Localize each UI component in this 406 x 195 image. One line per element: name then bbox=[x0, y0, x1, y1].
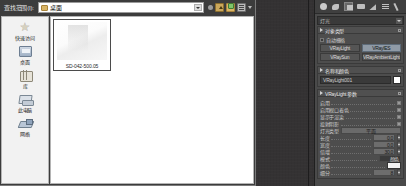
back-icon[interactable] bbox=[208, 5, 213, 10]
param-row-visible-in-render[interactable]: 显示于渲染 bbox=[320, 113, 401, 120]
up-folder-icon[interactable] bbox=[215, 3, 224, 12]
hierarchy-tab-icon[interactable] bbox=[344, 2, 353, 11]
param-row-enable[interactable]: 启用 bbox=[320, 99, 401, 106]
param-label: 灯光类型 bbox=[320, 127, 339, 134]
rollout-title: 名称和颜色 bbox=[325, 67, 349, 74]
param-checkbox[interactable] bbox=[397, 101, 401, 105]
rollout-header[interactable]: 对象类型 bbox=[317, 26, 404, 34]
lookin-label: 查找范围(I): bbox=[2, 3, 36, 12]
param-row-subdivs[interactable]: 细分 8 bbox=[320, 169, 401, 176]
sidebar-item-desktop[interactable]: 桌面 bbox=[2, 44, 48, 68]
param-checkbox[interactable] bbox=[397, 122, 401, 126]
param-row-mode[interactable]: 模式 颜色 bbox=[320, 155, 401, 162]
star-icon bbox=[19, 22, 32, 33]
vrayambientlight-button[interactable]: VRayAmbientLight bbox=[362, 53, 402, 61]
sidebar-item-label: 桌面 bbox=[20, 58, 30, 65]
sidebar-item-label: 快速访问 bbox=[15, 34, 34, 41]
app-root: 查找范围(I): 桌面 快速访问 bbox=[0, 0, 406, 195]
command-panel-tabs bbox=[315, 0, 406, 14]
rollout-header[interactable]: VRayLight 参数 bbox=[317, 89, 404, 97]
chevron-down-icon[interactable] bbox=[194, 4, 202, 11]
param-leader bbox=[331, 171, 371, 175]
sidebar-item-label: 网络 bbox=[20, 130, 30, 137]
object-category-dropdown[interactable]: 灯光 bbox=[317, 16, 404, 25]
chevron-right-icon bbox=[320, 91, 323, 95]
rollout-scroll-area[interactable]: 对象类型 自动栅格 VRayLight VRayIES VRaySun VRay… bbox=[315, 25, 406, 186]
utilities-tab-icon[interactable] bbox=[381, 2, 390, 11]
param-row-multiplier[interactable]: 倍增 30.0 bbox=[320, 148, 401, 155]
places-sidebar: 快速访问 桌面 库 此电脑 网络 bbox=[1, 16, 49, 184]
address-combo[interactable]: 桌面 bbox=[38, 2, 204, 13]
param-leader bbox=[331, 164, 385, 168]
file-list[interactable]: SD-042-500.05 bbox=[50, 16, 254, 184]
param-label: 宽度 bbox=[320, 141, 329, 148]
object-name-field[interactable]: VRayLight001 bbox=[320, 76, 391, 84]
param-row-width[interactable]: 宽度 0.0 bbox=[320, 141, 401, 148]
subdivs-spinner[interactable] bbox=[397, 169, 401, 176]
page-bottom-edge bbox=[0, 186, 406, 195]
chevron-down-icon[interactable] bbox=[396, 18, 402, 24]
multiplier-field[interactable]: 30.0 bbox=[373, 148, 395, 155]
length-spinner[interactable] bbox=[397, 134, 401, 141]
rollout-object-type: 对象类型 自动栅格 VRayLight VRayIES VRaySun VRay… bbox=[317, 26, 404, 64]
param-row-color[interactable]: 颜色 bbox=[320, 162, 401, 169]
autogrid-checkbox[interactable] bbox=[320, 38, 324, 42]
rollout-pin-icon[interactable] bbox=[398, 29, 401, 32]
vrayies-button[interactable]: VRayIES bbox=[362, 44, 402, 52]
object-type-button-row-1: VRayLight VRayIES bbox=[320, 44, 401, 52]
param-leader bbox=[350, 108, 395, 112]
param-leader bbox=[331, 150, 371, 154]
param-label: 投射阴影 bbox=[320, 120, 339, 127]
param-label: 颜色 bbox=[320, 162, 329, 169]
multiplier-spinner[interactable] bbox=[397, 148, 401, 155]
address-value: 桌面 bbox=[50, 3, 62, 12]
param-leader bbox=[346, 115, 395, 119]
motion-tab-icon[interactable] bbox=[356, 2, 365, 11]
chevron-down-icon[interactable] bbox=[248, 5, 253, 10]
sidebar-item-library[interactable]: 库 bbox=[2, 68, 48, 92]
mode-dropdown[interactable]: 颜色 bbox=[379, 155, 401, 162]
subdivs-field[interactable]: 8 bbox=[373, 169, 395, 176]
sidebar-item-this-pc[interactable]: 此电脑 bbox=[2, 92, 48, 116]
param-row-light-type[interactable]: 灯光类型 平面 bbox=[320, 127, 401, 134]
display-tab-icon[interactable] bbox=[368, 2, 377, 11]
modify-tab-icon[interactable] bbox=[331, 2, 340, 11]
param-row-cast-shadows[interactable]: 投射阴影 bbox=[320, 120, 401, 127]
sidebar-item-label: 库 bbox=[23, 82, 28, 89]
object-category-value: 灯光 bbox=[320, 17, 330, 24]
autogrid-checkbox-row[interactable]: 自动栅格 bbox=[320, 36, 401, 43]
desktop-icon bbox=[19, 46, 32, 57]
views-icon[interactable] bbox=[237, 3, 246, 12]
rollout-body: 自动栅格 VRayLight VRayIES VRaySun VRayAmbie… bbox=[317, 34, 404, 64]
param-label: 模式 bbox=[320, 155, 329, 162]
light-type-dropdown[interactable]: 平面 bbox=[341, 127, 401, 134]
vraylight-button[interactable]: VRayLight bbox=[320, 44, 360, 52]
rollout-body: 启用 启用视口着色 显示于渲染 投射阴影 bbox=[317, 97, 404, 179]
width-spinner[interactable] bbox=[397, 141, 401, 148]
param-row-length[interactable]: 长度 0.0 bbox=[320, 134, 401, 141]
name-and-color-row: VRayLight001 bbox=[320, 76, 401, 84]
viewport-panel-divider[interactable] bbox=[308, 0, 309, 186]
tools-tab-icon[interactable] bbox=[393, 2, 402, 11]
vraysun-button[interactable]: VRaySun bbox=[320, 53, 360, 61]
light-color-swatch[interactable] bbox=[387, 162, 401, 169]
param-checkbox[interactable] bbox=[397, 115, 401, 119]
folder-icon bbox=[41, 5, 48, 11]
rollout-pin-icon[interactable] bbox=[398, 69, 401, 72]
param-row-viewport-shading[interactable]: 启用视口着色 bbox=[320, 106, 401, 113]
list-item[interactable]: SD-042-500.05 bbox=[53, 19, 111, 71]
command-panel: 灯光 对象类型 自动栅格 VRayLight VRa bbox=[314, 0, 406, 186]
rollout-header[interactable]: 名称和颜色 bbox=[317, 66, 404, 74]
param-label: 细分 bbox=[320, 169, 329, 176]
param-label: 长度 bbox=[320, 134, 329, 141]
object-color-swatch[interactable] bbox=[393, 76, 401, 84]
rollout-pin-icon[interactable] bbox=[398, 92, 401, 95]
sidebar-item-quick-access[interactable]: 快速访问 bbox=[2, 20, 48, 44]
file-thumbnail bbox=[57, 22, 107, 60]
sidebar-item-network[interactable]: 网络 bbox=[2, 116, 48, 140]
new-folder-icon[interactable] bbox=[226, 3, 235, 12]
create-tab-icon[interactable] bbox=[319, 2, 328, 11]
width-field[interactable]: 0.0 bbox=[373, 141, 395, 148]
param-checkbox[interactable] bbox=[397, 108, 401, 112]
length-field[interactable]: 0.0 bbox=[373, 134, 395, 141]
